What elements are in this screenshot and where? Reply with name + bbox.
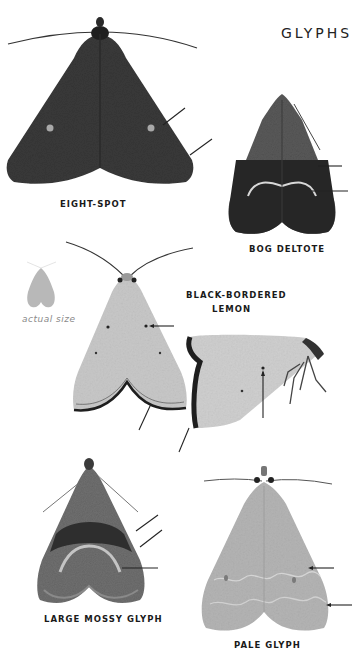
species-label-pale-glyph: PALE GLYPH	[234, 640, 301, 650]
pointer-arrow	[139, 404, 151, 430]
spot	[261, 366, 264, 369]
actual-size-silhouette	[27, 262, 56, 307]
species-label-large-mossy-glyph: LARGE MOSSY GLYPH	[44, 614, 163, 624]
spot	[144, 324, 147, 327]
field-guide-page: GLYPHS	[0, 0, 353, 651]
pointer-arrow	[190, 139, 212, 155]
pointer-arrow	[136, 515, 158, 531]
wing	[189, 335, 318, 428]
moth-large-mossy-glyph	[37, 458, 162, 603]
spot	[95, 352, 97, 354]
spot	[159, 352, 161, 354]
spot-right	[148, 125, 155, 132]
actual-size-caption: actual size	[22, 314, 76, 324]
moth-bog-deltote	[228, 94, 348, 234]
pointer-arrow	[179, 428, 189, 452]
moth-black-bordered-lemon-lateral	[179, 335, 326, 452]
spot	[106, 325, 109, 328]
antenna-right	[266, 480, 332, 484]
pointer-arrow	[140, 530, 162, 547]
wings	[73, 276, 187, 410]
species-label-black-bordered-line2: LEMON	[212, 304, 251, 314]
species-label-eight-spot: EIGHT-SPOT	[60, 199, 127, 209]
pointer-arrow	[163, 108, 185, 125]
antenna-right	[130, 248, 193, 276]
moth-illustrations	[0, 0, 353, 651]
antenna-left	[204, 479, 262, 481]
moth-eight-spot	[7, 17, 212, 184]
species-label-black-bordered-line1: BLACK-BORDERED	[186, 290, 287, 300]
species-label-bog-deltote: BOG DELTOTE	[249, 244, 325, 254]
spot-left	[47, 125, 54, 132]
moth-pale-glyph	[202, 466, 352, 631]
wings	[202, 482, 329, 631]
moth-black-bordered-lemon-dorsal	[66, 242, 193, 430]
spot	[241, 390, 244, 393]
antenna-left	[66, 242, 124, 276]
